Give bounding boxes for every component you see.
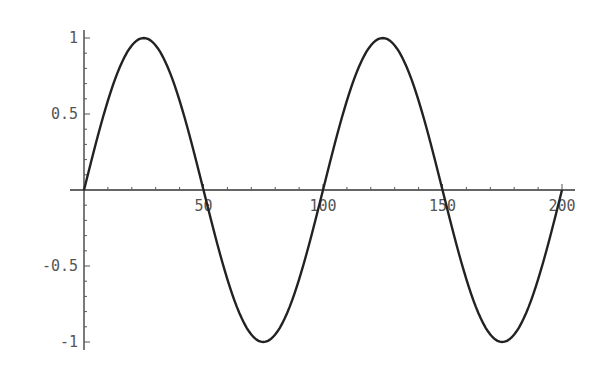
plot-area: 50100150200-1-0.50.51 <box>0 0 607 368</box>
y-tick-label: -0.5 <box>42 257 78 275</box>
x-tick-label: 200 <box>548 197 575 215</box>
y-tick-label: 0.5 <box>51 105 78 123</box>
chart: 50100150200-1-0.50.51 <box>0 0 607 368</box>
y-tick-label: -1 <box>60 333 78 351</box>
x-tick-label: 100 <box>309 197 336 215</box>
x-tick-label: 150 <box>429 197 456 215</box>
y-tick-label: 1 <box>69 29 78 47</box>
